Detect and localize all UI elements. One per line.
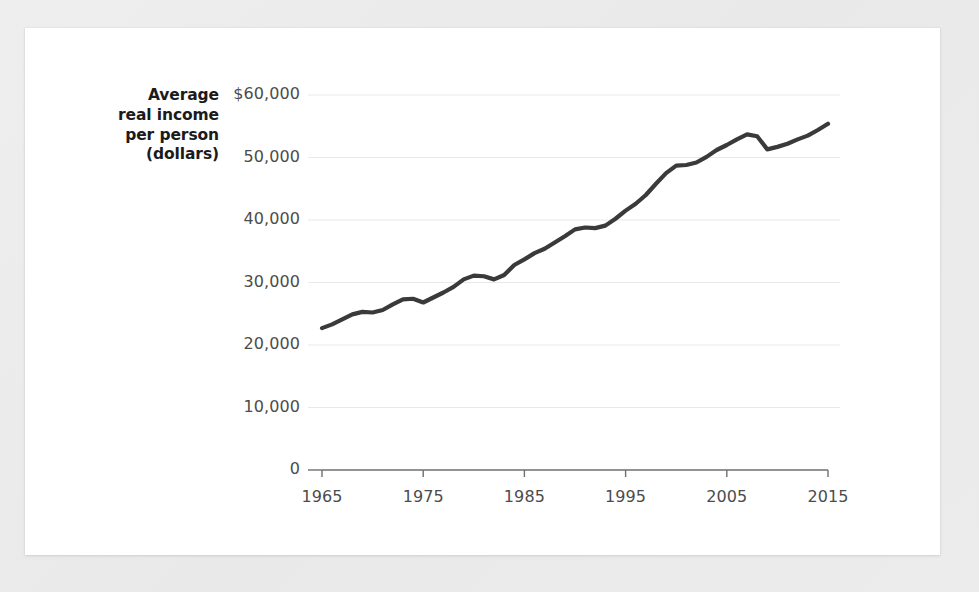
y-tick-label-10000: 10,000 <box>243 397 300 416</box>
y-tick-label-40000: 40,000 <box>243 209 300 228</box>
y-axis-tick-marks-group <box>308 95 322 470</box>
x-tick-label-1965: 1965 <box>282 487 362 506</box>
chart-container: Average real income per person (dollars)… <box>25 28 940 555</box>
y-tick-label-60000: $60,000 <box>233 84 300 103</box>
y-tick-label-20000: 20,000 <box>243 334 300 353</box>
x-tick-label-2005: 2005 <box>687 487 767 506</box>
y-tick-label-30000: 30,000 <box>243 272 300 291</box>
x-axis-ticks-group <box>322 470 828 477</box>
screenshot-root: Average real income per person (dollars)… <box>0 0 979 592</box>
y-tick-label-50000: 50,000 <box>243 147 300 166</box>
y-tick-label-0: 0 <box>290 459 300 478</box>
income-trend-line <box>322 124 828 328</box>
x-tick-label-1985: 1985 <box>484 487 564 506</box>
x-tick-label-1995: 1995 <box>586 487 666 506</box>
x-tick-label-1975: 1975 <box>383 487 463 506</box>
x-tick-label-2015: 2015 <box>788 487 868 506</box>
chart-plot-svg <box>25 28 940 555</box>
chart-card: Average real income per person (dollars)… <box>25 28 940 555</box>
